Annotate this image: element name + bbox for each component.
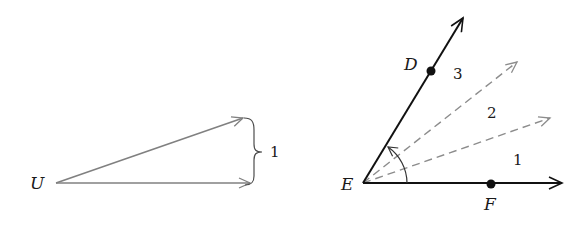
point-f <box>487 180 496 189</box>
dashed-ray-2 <box>363 62 517 183</box>
label-d: D <box>403 54 418 74</box>
region-label-1: 1 <box>513 151 523 169</box>
label-f: F <box>483 194 497 214</box>
left-figure: U 1 <box>30 118 280 193</box>
brace-label: 1 <box>270 143 280 161</box>
label-u: U <box>30 173 45 193</box>
brace-icon <box>244 118 262 185</box>
point-d <box>427 67 436 76</box>
diagram-canvas: U 1 E D F 3 2 1 <box>0 0 587 234</box>
region-label-3: 3 <box>453 65 463 83</box>
ray-ed <box>363 18 463 183</box>
region-label-2: 2 <box>487 104 497 122</box>
angle-arc-icon <box>388 147 407 183</box>
label-e: E <box>340 174 354 194</box>
right-figure: E D F 3 2 1 <box>340 18 562 214</box>
vector-upper <box>56 118 243 183</box>
